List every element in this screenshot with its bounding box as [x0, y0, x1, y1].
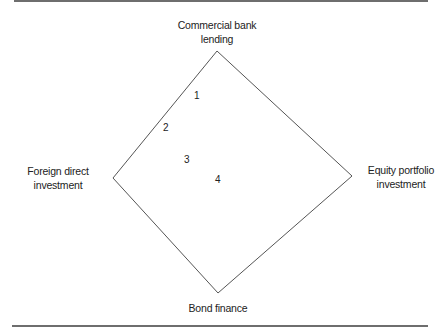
- diamond-shape: [113, 51, 352, 293]
- vertex-label-bottom-line1: Bond finance: [168, 301, 268, 315]
- point-label-2: 2: [163, 122, 169, 134]
- point-label-3: 3: [184, 154, 190, 166]
- vertex-label-left-line1: Foreign direct: [12, 164, 104, 178]
- vertex-label-right-line2: investment: [356, 177, 442, 191]
- vertex-label-top-line1: Commercial bank: [167, 18, 267, 32]
- vertex-label-right-line1: Equity portfolio: [356, 163, 442, 177]
- vertex-label-right: Equity portfolio investment: [356, 163, 442, 191]
- vertex-label-left-line2: investment: [12, 178, 104, 192]
- vertex-label-bottom: Bond finance: [168, 301, 268, 315]
- vertex-label-top-line2: lending: [167, 32, 267, 46]
- point-label-1: 1: [194, 90, 200, 102]
- vertex-label-left: Foreign direct investment: [12, 164, 104, 192]
- bottom-rule: [12, 325, 428, 327]
- vertex-label-top: Commercial bank lending: [167, 18, 267, 46]
- point-label-4: 4: [215, 174, 221, 186]
